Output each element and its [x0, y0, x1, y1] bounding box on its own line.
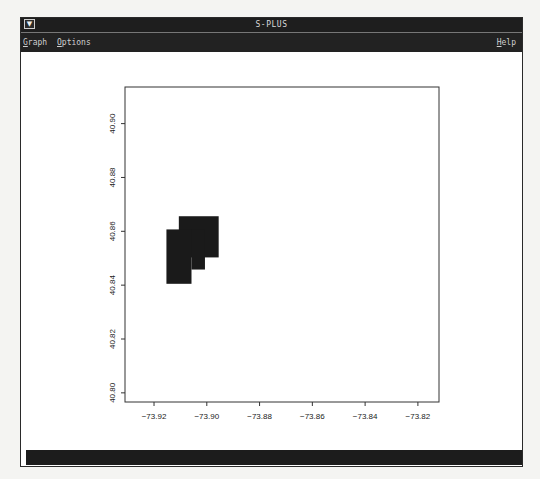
- y-tick-label: 40.86: [108, 221, 117, 242]
- status-bar: [26, 450, 522, 465]
- menu-options[interactable]: Options: [57, 38, 91, 47]
- chart: −73.92−73.90−73.88−73.86−73.84−73.8240.8…: [21, 52, 522, 450]
- y-tick-label: 40.84: [108, 275, 117, 296]
- menu-help[interactable]: Help: [497, 38, 516, 47]
- title-bar[interactable]: ▼ S-PLUS: [21, 18, 522, 33]
- data-region-middle-step: [191, 229, 204, 269]
- y-tick-label: 40.82: [108, 328, 117, 349]
- y-tick-label: 40.80: [108, 382, 117, 403]
- data-region-left-block: [166, 229, 191, 283]
- menu-graph[interactable]: Graph: [23, 38, 47, 47]
- window-title: S-PLUS: [21, 18, 522, 32]
- y-tick-label: 40.90: [108, 113, 117, 134]
- x-tick-label: −73.86: [300, 412, 325, 421]
- x-tick-label: −73.88: [247, 412, 272, 421]
- x-tick-label: −73.92: [142, 412, 167, 421]
- x-tick-label: −73.84: [353, 412, 378, 421]
- menu-bar: Graph Options Help: [21, 33, 522, 52]
- graph-area: −73.92−73.90−73.88−73.86−73.84−73.8240.8…: [21, 52, 522, 450]
- splus-window: ▼ S-PLUS Graph Options Help −73.92−73.90…: [20, 17, 523, 467]
- x-tick-label: −73.82: [406, 412, 431, 421]
- y-tick-label: 40.88: [108, 167, 117, 188]
- x-tick-label: −73.90: [194, 412, 219, 421]
